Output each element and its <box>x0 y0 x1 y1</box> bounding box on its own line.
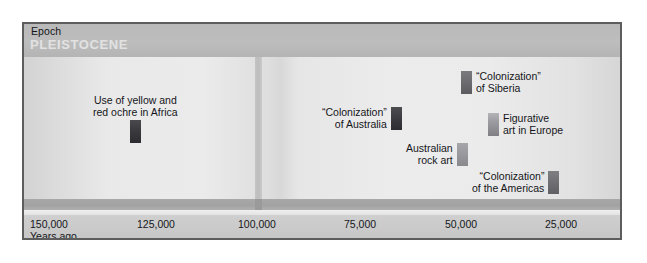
axis-tick-75000: 75,000 <box>344 218 376 230</box>
event-label-line1: “Colonization” <box>322 106 387 118</box>
event-label: Use of yellow and red ochre in Africa <box>93 94 178 118</box>
epoch-label: Epoch <box>31 25 61 37</box>
axis-tick-label: 75,000 <box>344 218 376 230</box>
event-ochre-africa: Use of yellow and red ochre in Africa <box>93 94 178 143</box>
event-label-line2: of the Americas <box>472 182 544 194</box>
axis-tick-label: 125,000 <box>137 218 175 230</box>
event-label-line2: art in Europe <box>503 124 563 136</box>
axis-label-band <box>24 215 620 240</box>
event-marker-colonization-siberia <box>461 71 472 94</box>
event-label-line2: of Siberia <box>476 82 541 94</box>
event-colonization-americas: “Colonization” of the Americas <box>472 170 559 194</box>
timeline-figure: Epoch PLEISTOCENE Use of yellow and red … <box>22 22 622 240</box>
epoch-band: Epoch PLEISTOCENE <box>24 24 620 57</box>
event-marker-colonization-australia <box>391 107 402 130</box>
event-label: “Colonization” of Australia <box>322 106 387 130</box>
panel-divider-100k <box>255 57 262 199</box>
axis-tick-label: 150,000 <box>30 218 68 230</box>
axis-tick-50000: 50,000 <box>445 218 477 230</box>
event-marker-colonization-americas <box>548 171 559 194</box>
axis-tick-150000: 150,000 Years ago <box>30 218 77 240</box>
event-figurative-art-europe: Figurative art in Europe <box>488 112 563 136</box>
event-label-line1: Australian <box>406 142 453 154</box>
axis-tick-label: 25,000 <box>545 218 577 230</box>
event-colonization-siberia: “Colonization” of Siberia <box>461 70 541 94</box>
axis-unit-label: Years ago <box>30 230 77 240</box>
event-label-line1: “Colonization” <box>476 70 541 82</box>
axis-base-divider <box>255 199 262 210</box>
event-label: Figurative art in Europe <box>503 112 563 136</box>
axis-tick-100000: 100,000 <box>238 218 276 230</box>
event-marker-ochre-africa <box>130 120 141 143</box>
event-colonization-australia: “Colonization” of Australia <box>322 106 402 130</box>
axis-base-band <box>24 199 620 210</box>
event-marker-figurative-art-europe <box>488 113 499 136</box>
event-australian-rock-art: Australian rock art <box>406 142 468 166</box>
axis-tick-125000: 125,000 <box>137 218 175 230</box>
event-label-line2: red ochre in Africa <box>93 106 178 118</box>
axis-tick-label: 100,000 <box>238 218 276 230</box>
epoch-name-pleistocene: PLEISTOCENE <box>30 37 128 52</box>
event-label: “Colonization” of Siberia <box>476 70 541 94</box>
event-label-line1: Use of yellow and <box>93 94 178 106</box>
event-label: “Colonization” of the Americas <box>472 170 544 194</box>
event-label-line1: Figurative <box>503 112 563 124</box>
event-label: Australian rock art <box>406 142 453 166</box>
event-label-line2: of Australia <box>322 118 387 130</box>
axis-tick-label: 50,000 <box>445 218 477 230</box>
event-label-line2: rock art <box>406 154 453 166</box>
axis-tick-25000: 25,000 <box>545 218 577 230</box>
event-label-line1: “Colonization” <box>472 170 544 182</box>
event-marker-australian-rock-art <box>457 143 468 166</box>
